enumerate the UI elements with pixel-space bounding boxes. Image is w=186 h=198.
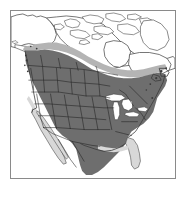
map-frame [10,10,176,179]
map-region-label: North America [0,0,1,1]
map-alt-text: Grayscale range map of North America sho… [0,0,1,1]
range-map-figure: Grayscale range map of North America sho… [0,0,186,198]
north-america-range-map [11,11,175,178]
